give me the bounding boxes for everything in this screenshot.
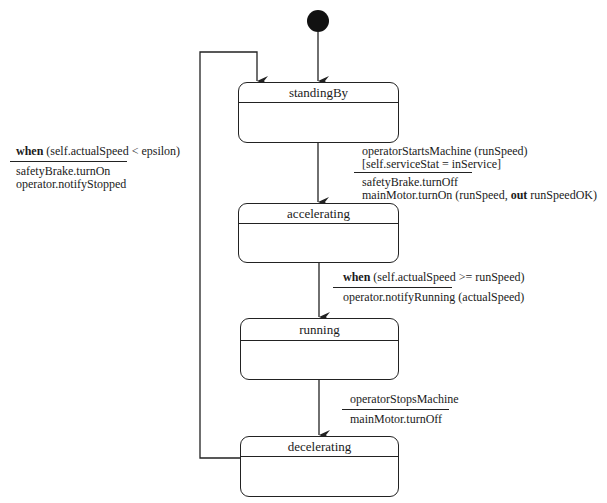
divider: [333, 287, 452, 288]
action-text: mainMotor.turnOn (runSpeed,: [362, 188, 511, 202]
trigger-text: (self.actualSpeed >= runSpeed): [370, 270, 524, 284]
when-keyword: when: [343, 270, 370, 284]
divider: [342, 409, 449, 410]
trigger: when (self.actualSpeed >= runSpeed): [333, 271, 525, 284]
action-text: runSpeedOK): [527, 188, 597, 202]
action: mainMotor.turnOn (runSpeed, out runSpeed…: [354, 189, 597, 202]
state-standingBy: standingBy: [238, 82, 399, 143]
label-accelerating-to-running: when (self.actualSpeed >= runSpeed) oper…: [333, 271, 525, 304]
out-keyword: out: [511, 188, 528, 202]
state-accelerating: accelerating: [238, 203, 399, 263]
initial-state-dot: [307, 10, 329, 32]
guard: [self.serviceStat = inService]: [354, 158, 597, 171]
state-decelerating: decelerating: [240, 436, 399, 497]
state-name: standingBy: [239, 83, 398, 103]
action: mainMotor.turnOff: [342, 413, 459, 426]
label-running-to-decelerating: operatorStopsMachine mainMotor.turnOff: [342, 393, 459, 426]
state-name: running: [241, 319, 398, 341]
state-name: accelerating: [239, 204, 398, 224]
divider: [354, 172, 472, 173]
trigger: operatorStopsMachine: [342, 393, 459, 406]
label-decelerating-to-standingBy: when (self.actualSpeed < epsilon) safety…: [10, 145, 180, 191]
trigger: when (self.actualSpeed < epsilon): [10, 145, 180, 158]
divider: [10, 161, 127, 162]
action: operator.notifyStopped: [10, 178, 180, 191]
state-name: decelerating: [241, 437, 398, 457]
trigger-text: (self.actualSpeed < epsilon): [43, 144, 180, 158]
state-running: running: [240, 318, 399, 380]
when-keyword: when: [16, 144, 43, 158]
action: operator.notifyRunning (actualSpeed): [333, 291, 525, 304]
label-standingBy-to-accelerating: operatorStartsMachine (runSpeed) [self.s…: [354, 145, 597, 202]
